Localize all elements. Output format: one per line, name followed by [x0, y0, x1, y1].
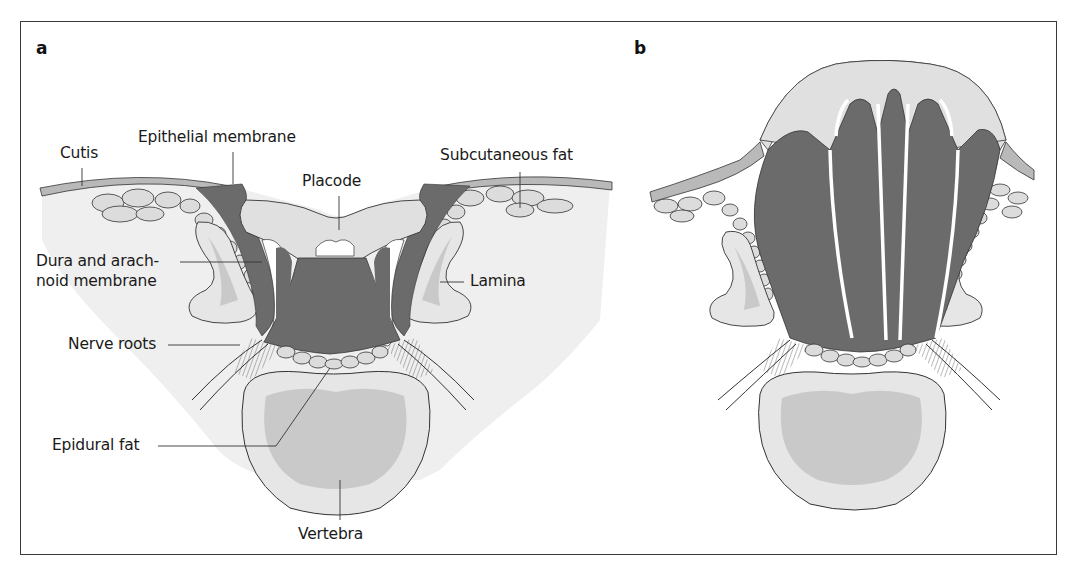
label-subcutaneous-fat: Subcutaneous fat	[440, 146, 573, 165]
label-epidural-fat: Epidural fat	[52, 436, 139, 455]
panel-letter-b: b	[634, 38, 646, 58]
spinal-cross-section-illustration	[0, 0, 1076, 563]
label-cutis: Cutis	[60, 144, 98, 163]
cutis-b-right	[1000, 142, 1034, 180]
panel-letter-a: a	[36, 38, 47, 58]
label-epithelial-membrane: Epithelial membrane	[138, 128, 296, 147]
label-dura-arachnoid-line1: Dura and arach-	[36, 252, 159, 271]
label-lamina: Lamina	[470, 272, 526, 291]
panel-b-illustration	[650, 60, 1034, 510]
label-nerve-roots: Nerve roots	[68, 335, 156, 354]
label-dura-arachnoid-line2: noid membrane	[36, 272, 157, 291]
label-vertebra: Vertebra	[298, 525, 363, 544]
label-placode: Placode	[302, 172, 361, 191]
